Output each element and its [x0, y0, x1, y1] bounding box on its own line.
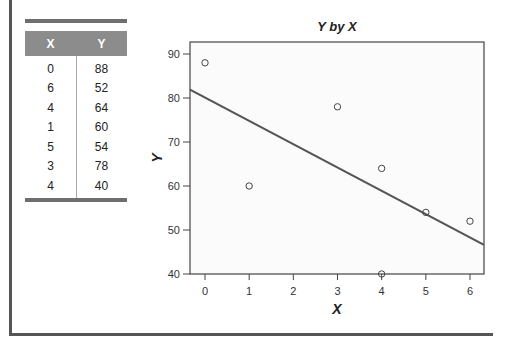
- y-tick-label: 70: [168, 136, 180, 148]
- y-tick-label: 90: [168, 48, 180, 60]
- x-tick-label: 6: [467, 285, 473, 297]
- plot-area: [190, 42, 484, 274]
- x-tick-label: 5: [423, 285, 429, 297]
- x-axis-label: X: [331, 301, 343, 317]
- y-tick-label: 40: [168, 268, 180, 280]
- y-axis: 405060708090: [168, 48, 190, 280]
- chart-title: Y by X: [317, 19, 358, 34]
- y-tick-label: 80: [168, 92, 180, 104]
- y-axis-label: Y: [149, 152, 165, 163]
- x-tick-label: 1: [246, 285, 252, 297]
- y-tick-label: 60: [168, 180, 180, 192]
- x-tick-label: 4: [379, 285, 385, 297]
- x-tick-label: 3: [334, 285, 340, 297]
- y-tick-label: 50: [168, 224, 180, 236]
- x-tick-label: 0: [202, 285, 208, 297]
- scatter-chart: Y by X 405060708090 0123456 Y X: [0, 0, 505, 344]
- x-axis: 0123456: [202, 274, 473, 297]
- x-tick-label: 2: [290, 285, 296, 297]
